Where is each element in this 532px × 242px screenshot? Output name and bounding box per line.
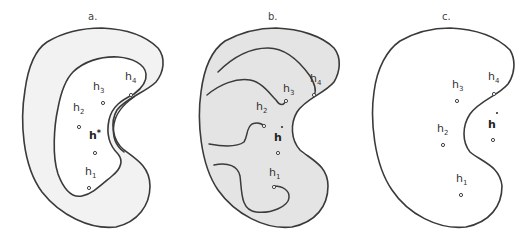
panel-b-h4-point [312, 93, 315, 96]
panel-b-hstar-point [276, 151, 279, 154]
panel-a-h1-point [87, 186, 90, 189]
panel-b: b. h3 h4 h2 h h1 [199, 11, 339, 227]
panel-b-hstar-marker [281, 126, 283, 128]
panel-c: c. h3 h4 h2 h h1 [373, 11, 514, 227]
panel-a-h3-point [101, 101, 104, 104]
panel-c-h2-point [441, 143, 444, 146]
panel-c-h3-point [455, 99, 458, 102]
panel-c-label: c. [442, 11, 451, 22]
panel-b-h2-point [262, 124, 265, 127]
panel-c-h1-point [459, 193, 462, 196]
panel-b-h3-point [284, 99, 287, 102]
panel-b-hstar-label: h [274, 131, 282, 144]
panel-a: a. h3 h4 h2 h* h1 [23, 11, 163, 227]
panel-b-region [199, 28, 339, 227]
panel-c-hstar-marker [496, 112, 498, 114]
panel-a-hstar-point [93, 151, 96, 154]
panel-c-h4-point [492, 92, 495, 95]
figure-canvas: a. h3 h4 h2 h* h1 b. h3 h4 h2 h [0, 0, 532, 242]
panel-c-hstar-point [491, 138, 494, 141]
panel-a-h2-point [77, 125, 80, 128]
panel-a-h4-point [129, 93, 132, 96]
panel-b-label: b. [268, 11, 278, 22]
panel-a-label: a. [88, 11, 97, 22]
panel-c-hstar-label: h [488, 118, 496, 131]
panel-b-h1-point [272, 185, 275, 188]
